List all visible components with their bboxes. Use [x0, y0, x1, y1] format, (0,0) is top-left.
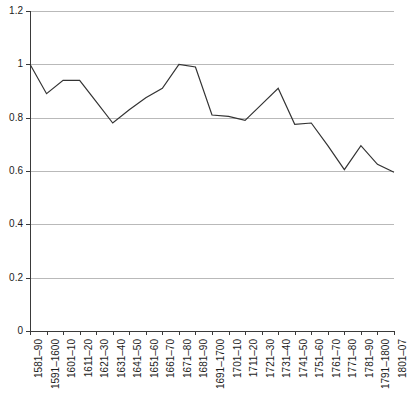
series-polyline [30, 64, 394, 172]
